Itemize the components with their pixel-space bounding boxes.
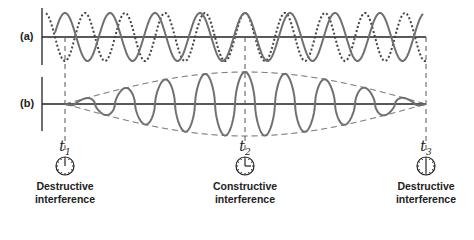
t2-label: t2 <box>230 138 260 157</box>
t3-label: t3 <box>411 138 441 157</box>
t1-caption: Destructiveinterference <box>20 180 110 205</box>
t2-caption: Constructiveinterference <box>200 180 290 205</box>
t3-caption: Destructiveinterference <box>381 180 471 205</box>
panel-b-label: (b) <box>20 97 34 109</box>
t1-label: t1 <box>50 138 80 157</box>
panel-a-label: (a) <box>20 30 33 42</box>
clock-icon-t2 <box>236 157 254 175</box>
clock-icon-t3 <box>417 157 435 175</box>
clock-icon-t1 <box>56 157 74 175</box>
